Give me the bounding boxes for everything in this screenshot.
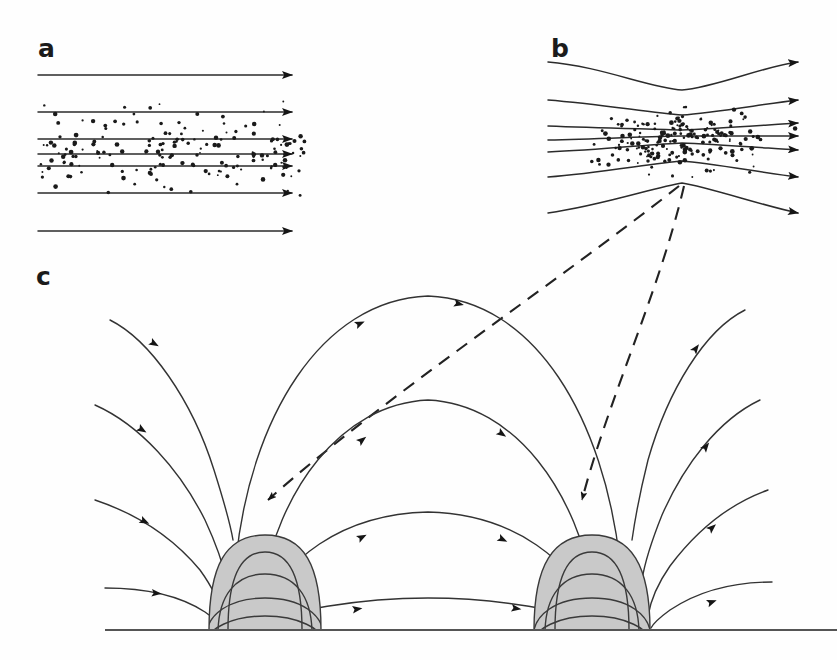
diagram-canvas: a b: [0, 0, 837, 660]
particle: [616, 158, 620, 162]
particle: [673, 132, 677, 136]
particle: [56, 121, 60, 125]
panel-c-arch-arrowheads: [352, 299, 522, 614]
particle: [683, 137, 686, 140]
particle: [670, 151, 674, 155]
particle: [644, 150, 646, 152]
particle: [669, 140, 671, 142]
particle: [292, 152, 294, 154]
particle: [748, 129, 752, 133]
particle: [218, 170, 221, 173]
particle: [740, 111, 744, 115]
particle: [617, 123, 620, 126]
particle: [164, 131, 168, 135]
particle: [646, 159, 649, 162]
particle: [102, 150, 105, 153]
particle: [225, 174, 229, 178]
particle: [252, 132, 256, 136]
dashed-connector-right: [582, 186, 684, 500]
particle: [172, 144, 176, 148]
particle: [636, 141, 641, 146]
particle: [290, 175, 292, 177]
particle: [103, 124, 107, 128]
particle: [80, 171, 83, 174]
panel-c-outer-lines-right: [632, 310, 772, 628]
particle: [148, 144, 151, 147]
particle: [195, 112, 199, 116]
particle: [700, 117, 702, 119]
particle: [603, 131, 608, 136]
particle: [180, 132, 183, 135]
particle: [74, 155, 77, 158]
particle: [618, 144, 620, 146]
particle: [633, 128, 636, 131]
particle: [223, 122, 226, 125]
particle: [651, 148, 654, 151]
particle: [622, 141, 624, 143]
particle: [72, 141, 77, 146]
particle: [161, 148, 164, 151]
particle: [40, 163, 42, 165]
field-line-b-2: [548, 100, 798, 115]
particle: [261, 158, 263, 160]
particle: [663, 139, 667, 143]
particle: [299, 155, 301, 157]
field-line-c-right-outer-1: [632, 310, 745, 540]
field-line-c-arch-1: [236, 296, 620, 562]
particle: [714, 138, 718, 142]
particle: [78, 165, 80, 167]
panel-b-particles: [590, 106, 797, 178]
field-line-c-left-outer-4: [105, 588, 222, 628]
particle: [653, 127, 656, 130]
particle: [620, 134, 625, 139]
particle: [711, 124, 713, 126]
arrow-c-left-1: [148, 338, 160, 350]
particle: [713, 169, 715, 171]
particle: [601, 129, 604, 132]
particle: [133, 113, 136, 116]
particle: [74, 133, 79, 138]
arrow-c-arch-2-left: [356, 434, 369, 446]
particle: [159, 103, 161, 105]
particle: [280, 144, 282, 146]
particle: [662, 130, 665, 133]
particle: [730, 149, 735, 154]
particle: [47, 166, 51, 170]
particle: [722, 133, 726, 137]
particle: [298, 134, 302, 138]
particle: [633, 121, 636, 124]
particle: [663, 160, 666, 163]
particle: [701, 153, 705, 157]
particle: [614, 147, 617, 150]
particle: [58, 152, 60, 154]
particle: [717, 130, 719, 132]
particle: [148, 106, 152, 110]
particle: [748, 171, 751, 174]
particle: [753, 166, 755, 168]
particle: [199, 152, 201, 154]
particle: [169, 187, 173, 191]
particle: [53, 112, 58, 117]
particle: [251, 152, 256, 157]
particle: [693, 133, 696, 136]
particle: [273, 163, 277, 167]
particle: [41, 175, 44, 178]
particle: [596, 158, 600, 162]
particle: [705, 168, 709, 172]
particle: [744, 137, 748, 141]
particle: [282, 101, 284, 103]
particle: [690, 152, 693, 155]
particle: [740, 148, 744, 152]
particle: [232, 136, 236, 140]
particle: [683, 158, 688, 163]
particle: [669, 120, 674, 125]
particle: [668, 111, 671, 114]
particle: [680, 144, 683, 147]
particle: [121, 170, 124, 173]
particle: [731, 153, 735, 157]
particle: [113, 119, 117, 123]
particle: [666, 133, 671, 138]
particle: [713, 128, 716, 131]
particle: [168, 132, 171, 135]
particle: [260, 153, 264, 157]
